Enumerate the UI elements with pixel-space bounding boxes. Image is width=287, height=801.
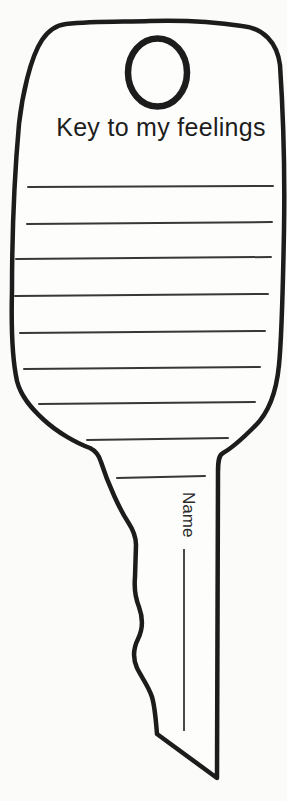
- name-field: Name: [178, 492, 198, 731]
- name-label: Name: [179, 492, 198, 537]
- writing-line: [28, 186, 273, 187]
- document-title: Key to my feelings: [30, 112, 287, 142]
- worksheet-page: Key to my feelings Name: [0, 0, 287, 801]
- name-fill-line: [183, 549, 185, 731]
